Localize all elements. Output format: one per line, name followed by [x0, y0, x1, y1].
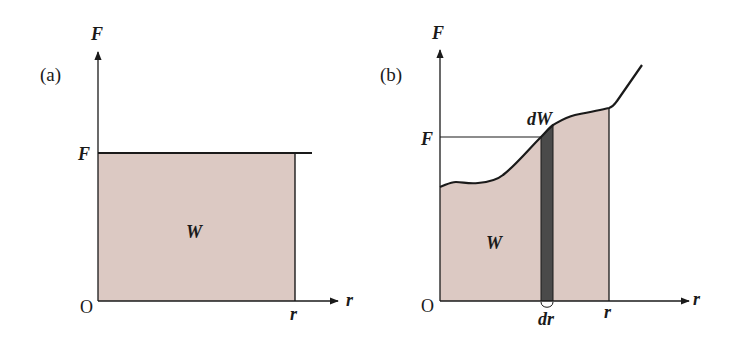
work-label-b: W [486, 233, 504, 253]
panel-a: (a) F F O r r W [40, 24, 354, 324]
origin-label-b: O [421, 296, 434, 316]
force-tick-label-b: F [420, 129, 433, 149]
work-label-a: W [186, 222, 204, 242]
x-end-label-a: r [290, 304, 298, 324]
panel-label-a: (a) [40, 64, 61, 86]
dw-label: dW [527, 109, 554, 129]
y-axis-label-b: F [431, 23, 444, 43]
work-diagram: (a) F F O r r W [0, 0, 739, 347]
x-axis-label-a: r [346, 290, 354, 310]
panel-b: (b) F F O r r W dW dr [380, 23, 701, 329]
panel-label-b: (b) [380, 64, 402, 86]
dr-label: dr [538, 309, 555, 329]
y-axis-label-a: F [90, 24, 103, 44]
origin-label-a: O [80, 297, 93, 317]
x-end-label-b: r [604, 302, 612, 322]
dr-brace [541, 302, 553, 307]
dw-strip [541, 125, 553, 301]
force-tick-label-a: F [77, 144, 90, 164]
x-axis-label-b: r [693, 289, 701, 309]
